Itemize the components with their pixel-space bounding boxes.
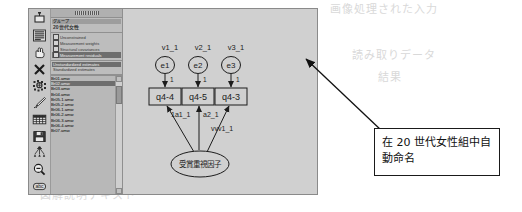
annotation-callout-text: 在 20 世代女性組中自動命名 — [382, 136, 491, 165]
rectangle-tool-icon[interactable] — [30, 11, 49, 27]
file-list-scrollbar[interactable] — [115, 76, 122, 194]
error-path-e1-label: 1 — [170, 76, 174, 83]
observed-node-q4-5-label: q4-5 — [189, 92, 207, 102]
error-path-e2-label: 1 — [203, 76, 207, 83]
title-bar-hatch-right — [88, 11, 99, 15]
panel-title-bar — [51, 9, 122, 18]
hand-tool-icon[interactable] — [30, 44, 49, 60]
factor-loading-label-q4-3: vvv1_1 — [211, 125, 233, 133]
error-variance-label-v2: v2_1 — [195, 43, 211, 52]
estimates-panel: Unstandardized estimates Standardized es… — [51, 61, 122, 75]
error-variance-label-v3: v3_1 — [228, 43, 244, 52]
list-item[interactable]: Br07.amw — [51, 128, 122, 133]
model-item-label: Measurement residuals — [60, 53, 102, 58]
side-panel-stack: グループ 20世代女性 Unconstrained Measurement we… — [51, 9, 123, 194]
callout-leader-arrow — [300, 48, 390, 138]
error-path-e3-label: 1 — [236, 76, 240, 83]
svg-text:abc: abc — [35, 183, 44, 189]
factor-loading-label-q4-5: a2_1 — [203, 111, 219, 119]
model-item-3[interactable]: Measurement residuals — [52, 52, 121, 58]
annotation-callout-box: 在 20 世代女性組中自動命名 — [374, 128, 500, 176]
error-node-e1-label: e1 — [161, 61, 170, 70]
model-panel: Unconstrained Measurement weights Struct… — [51, 33, 122, 61]
pen-tool-icon[interactable] — [30, 95, 49, 111]
factor-loading-label-q4-4: 1a1_1 — [171, 111, 191, 119]
text-caption-tool-icon[interactable]: abc — [30, 178, 49, 194]
save-tool-icon[interactable] — [30, 128, 49, 144]
page-bleed-text-1: 画像処理された入力 — [330, 2, 515, 17]
scroll-up-arrow-icon[interactable] — [116, 76, 122, 82]
error-node-e3-label: e3 — [227, 61, 236, 70]
checkbox-icon — [53, 52, 59, 58]
group-panel: グループ 20世代女性 — [51, 18, 122, 33]
title-bar-hatch-left — [75, 11, 86, 15]
amos-application-window: abc グループ 20世代女性 Unconstrained Measuremen… — [28, 8, 318, 195]
delete-tool-icon[interactable] — [30, 61, 49, 77]
error-node-e2-label: e2 — [194, 61, 203, 70]
scroll-down-arrow-icon[interactable] — [116, 188, 122, 194]
file-list-panel[interactable]: Br01.amw Br02.amw Br03.amw Br04.amw Br05… — [51, 75, 122, 194]
observed-node-q4-4-label: q4-4 — [156, 92, 174, 102]
group-tool-icon[interactable] — [30, 145, 49, 161]
observed-node-q4-3-label: q4-3 — [222, 92, 240, 102]
table-output-tool-icon[interactable] — [30, 111, 49, 127]
tool-palette: abc — [29, 9, 51, 194]
path-diagram-canvas[interactable]: v1_1 v2_1 v3_1 e1 e2 e3 1 1 1 q4-4 q4-5 … — [123, 9, 317, 194]
group-panel-selected[interactable]: 20世代女性 — [52, 24, 121, 30]
latent-factor-node-label: 受賞重視因子 — [179, 159, 222, 169]
scrollbar-thumb[interactable] — [116, 86, 122, 104]
analysis-properties-tool-icon[interactable] — [30, 78, 49, 94]
list-variables-tool-icon[interactable] — [30, 28, 49, 44]
estimates-item-1[interactable]: Standardized estimates — [52, 67, 121, 72]
page-bleed-text-3: 結果 — [378, 70, 498, 85]
zoom-out-tool-icon[interactable] — [30, 162, 49, 178]
error-variance-label-v1: v1_1 — [162, 43, 178, 52]
